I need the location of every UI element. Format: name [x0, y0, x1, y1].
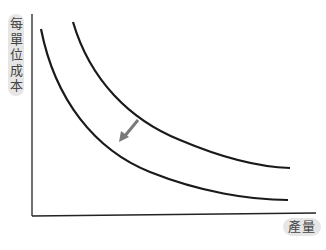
y-label-char: 單: [8, 32, 24, 48]
x-axis: [32, 213, 316, 216]
y-label-char: 位: [8, 47, 24, 63]
y-axis-label: 每 單 位 成 本: [8, 14, 24, 96]
y-label-char: 本: [8, 78, 24, 94]
x-axis-label: 產量: [283, 218, 321, 236]
y-label-char: 每: [8, 16, 24, 32]
y-label-char: 成: [8, 63, 24, 79]
lower-cost-curve: [41, 29, 288, 200]
cost-curve-diagram: [0, 0, 326, 250]
shift-arrow-icon: [119, 120, 138, 142]
